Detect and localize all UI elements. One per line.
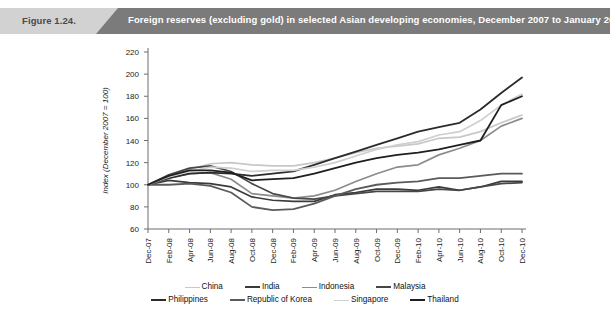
legend-item-philippines[interactable]: Philippines	[151, 293, 208, 307]
y-tick-label: 140	[126, 137, 140, 146]
x-tick-label: Aug-08	[227, 237, 236, 263]
x-tick-label: Jun-10	[456, 237, 465, 262]
legend-color-swatch	[410, 299, 425, 301]
x-tick-label: Feb-09	[289, 237, 298, 263]
x-tick-label: Apr-10	[435, 237, 444, 262]
legend-color-swatch	[334, 300, 349, 301]
y-tick-label: 180	[126, 92, 140, 101]
series-line-thailand	[148, 96, 522, 185]
x-tick-label: Feb-08	[165, 237, 174, 263]
legend-color-swatch	[151, 299, 166, 301]
y-axis-title-text: Index (December 2007 = 100)	[101, 87, 110, 194]
x-tick-label: Apr-08	[186, 237, 195, 262]
legend-label: Malaysia	[393, 282, 425, 292]
legend-label: China	[202, 282, 223, 292]
x-tick-label: Dec-07	[144, 237, 153, 263]
data-series-group	[148, 77, 522, 210]
x-tick-label: Dec-08	[269, 237, 278, 263]
line-chart: Index (December 2007 = 100) 608010012014…	[0, 34, 610, 317]
legend-item-india[interactable]: India	[245, 280, 280, 294]
legend-label: Thailand	[427, 295, 458, 305]
figure-header-banner: Figure 1.24. Foreign reserves (excluding…	[0, 8, 610, 34]
legend-label: India	[262, 282, 280, 292]
y-tick-label: 220	[126, 48, 140, 57]
y-tick-label: 160	[126, 114, 140, 123]
series-line-republic-of-korea	[148, 174, 522, 211]
x-tick-label: Oct-09	[373, 237, 382, 262]
y-tick-label: 100	[126, 181, 140, 190]
legend-row: PhilippinesRepublic of KoreaSingaporeTha…	[0, 293, 610, 307]
legend-label: Indonesia	[319, 282, 355, 292]
figure-number-label: Figure 1.24.	[22, 15, 76, 26]
x-tick-label: Oct-10	[497, 237, 506, 262]
chart-legend: ChinaIndiaIndonesiaMalaysia PhilippinesR…	[0, 280, 610, 314]
x-axis-tick-labels: Dec-07Feb-08Apr-08Jun-08Aug-08Oct-08Dec-…	[144, 237, 527, 263]
legend-item-republic-of-korea[interactable]: Republic of Korea	[230, 293, 312, 307]
y-axis-tick-labels: 6080100120140160180200220	[126, 48, 140, 234]
y-tick-label: 120	[126, 159, 140, 168]
y-axis-title: Index (December 2007 = 100)	[101, 87, 110, 194]
x-tick-label: Oct-08	[248, 237, 257, 262]
legend-item-china[interactable]: China	[185, 280, 223, 294]
y-tick-label: 80	[130, 203, 139, 212]
y-tick-label: 60	[130, 225, 139, 234]
x-tick-label: Dec-10	[518, 237, 527, 263]
legend-item-singapore[interactable]: Singapore	[334, 293, 388, 307]
legend-item-indonesia[interactable]: Indonesia	[302, 280, 355, 294]
x-tick-label: Dec-09	[393, 237, 402, 263]
legend-color-swatch	[185, 287, 200, 288]
x-tick-label: Jun-09	[331, 237, 340, 262]
legend-row: ChinaIndiaIndonesiaMalaysia	[0, 280, 610, 294]
series-line-china	[148, 115, 522, 185]
x-tick-label: Aug-09	[352, 237, 361, 263]
x-tick-label: Apr-09	[310, 237, 319, 262]
legend-color-swatch	[376, 286, 391, 288]
legend-label: Singapore	[351, 295, 388, 305]
figure-title-label: Foreign reserves (excluding gold) in sel…	[128, 14, 602, 25]
legend-label: Republic of Korea	[247, 295, 312, 305]
legend-label: Philippines	[168, 295, 208, 305]
y-tick-label: 200	[126, 70, 140, 79]
axis-lines	[144, 48, 526, 233]
legend-color-swatch	[230, 299, 245, 301]
legend-color-swatch	[245, 286, 260, 288]
legend-item-malaysia[interactable]: Malaysia	[376, 280, 425, 294]
legend-item-thailand[interactable]: Thailand	[410, 293, 458, 307]
legend-color-swatch	[302, 287, 317, 288]
chart-canvas: Index (December 2007 = 100) 608010012014…	[0, 34, 610, 317]
x-tick-label: Feb-10	[414, 237, 423, 263]
x-tick-label: Aug-10	[476, 237, 485, 263]
x-tick-label: Jun-08	[206, 237, 215, 262]
